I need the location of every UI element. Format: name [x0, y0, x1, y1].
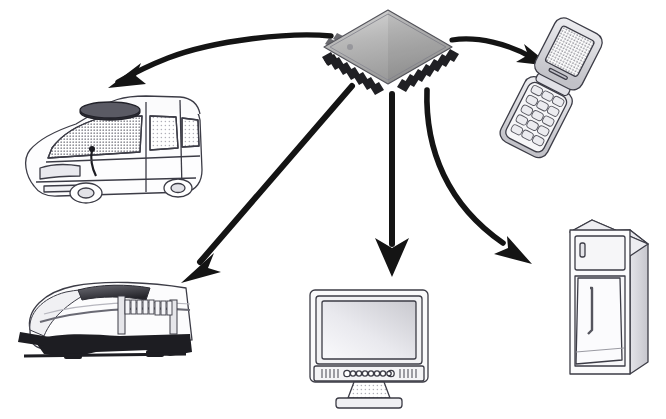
van-icon	[26, 96, 202, 203]
train-icon	[18, 282, 192, 359]
diagram-canvas: Microcontroller application domains QFP …	[0, 0, 666, 419]
arrow-to-van	[108, 35, 331, 88]
refrigerator-icon	[570, 220, 648, 374]
arrow-to-train	[181, 86, 352, 283]
microchip-icon	[322, 10, 459, 95]
arrow-to-monitor	[375, 94, 409, 277]
flip-phone-icon	[497, 14, 606, 161]
monitor-icon	[310, 290, 428, 408]
